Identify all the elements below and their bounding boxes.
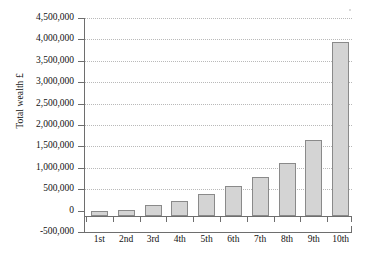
y-axis-tick-label: 500,000 bbox=[4, 183, 74, 193]
stray-speck-mark bbox=[349, 9, 351, 11]
bar-7th bbox=[252, 177, 269, 216]
x-axis-label-10th: 10th bbox=[325, 234, 357, 244]
y-axis-tick-label: 2,000,000 bbox=[4, 119, 74, 129]
x-axis-tick bbox=[300, 216, 301, 222]
bar-10th bbox=[332, 42, 349, 216]
x-axis-tick bbox=[327, 216, 328, 222]
x-axis-tick bbox=[86, 216, 87, 222]
x-axis-tick bbox=[220, 216, 221, 222]
y-axis-tick-label: 0 bbox=[4, 205, 74, 215]
x-axis-tick bbox=[166, 216, 167, 222]
x-axis-tick bbox=[193, 216, 194, 222]
y-axis-tick-label: 3,000,000 bbox=[4, 76, 74, 86]
wealth-decile-bar-chart: Total wealth £ -500,0000500,0001,000,000… bbox=[0, 0, 372, 265]
y-axis-tick-label: 1,500,000 bbox=[4, 140, 74, 150]
x-axis-label-layer: 1st2nd3rd4th5th6th7th8th9th10th bbox=[84, 234, 352, 252]
x-axis-tick bbox=[274, 216, 275, 222]
x-axis-tick bbox=[351, 216, 352, 222]
bar-4th bbox=[171, 201, 188, 216]
y-axis-tick-label: 2,500,000 bbox=[4, 98, 74, 108]
bars-layer bbox=[84, 18, 352, 216]
bar-8th bbox=[279, 163, 296, 216]
y-axis-tick-label: 4,500,000 bbox=[4, 12, 74, 22]
bar-6th bbox=[225, 186, 242, 216]
axis-frame-bottom bbox=[84, 232, 352, 233]
bar-9th bbox=[305, 140, 322, 216]
bar-5th bbox=[198, 194, 215, 216]
y-axis-tick-label: 3,500,000 bbox=[4, 55, 74, 65]
y-axis-tick-label: 1,000,000 bbox=[4, 162, 74, 172]
x-axis-tick-layer bbox=[84, 216, 352, 223]
x-axis-tick bbox=[140, 216, 141, 222]
axis-frame-right-cap bbox=[351, 226, 352, 232]
y-axis-tick-label: 4,000,000 bbox=[4, 33, 74, 43]
x-axis-tick bbox=[247, 216, 248, 222]
y-axis-tick-label: -500,000 bbox=[4, 226, 74, 236]
bar-3rd bbox=[145, 205, 162, 216]
x-axis-tick bbox=[113, 216, 114, 222]
